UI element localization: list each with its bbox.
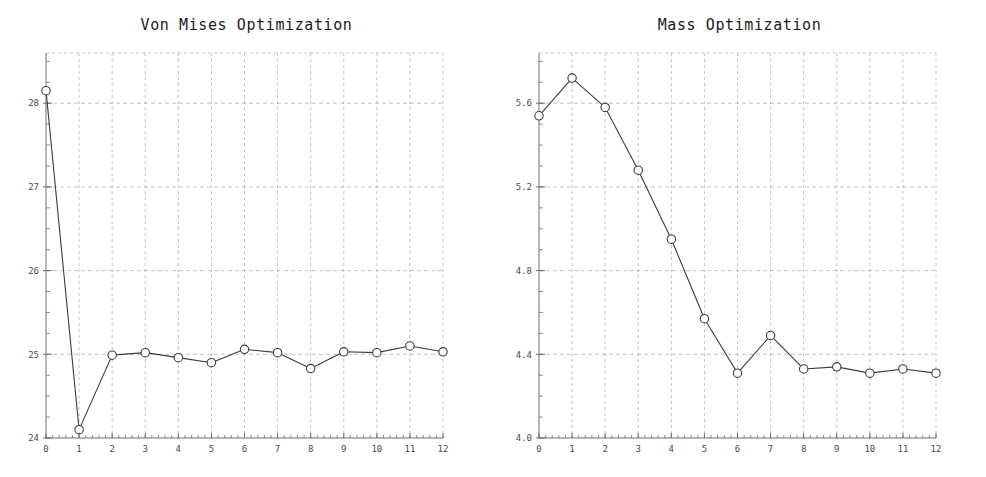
x-tick-label: 5 [702,444,707,454]
x-tick-label: 10 [371,444,382,454]
data-point-marker [932,369,940,377]
y-tick-label: 27 [28,182,39,192]
data-point-marker [601,103,609,111]
x-tick-label: 4 [669,444,674,454]
x-tick-label: 4 [176,444,181,454]
x-tick-label: 0 [43,444,48,454]
data-point-marker [75,425,83,433]
data-point-marker [733,369,741,377]
data-point-marker [439,348,447,356]
x-tick-label: 7 [275,444,280,454]
data-point-marker [42,86,50,94]
data-point-marker [373,348,381,356]
data-point-marker [406,342,414,350]
y-tick-label: 5.2 [516,182,532,192]
x-tick-label: 9 [341,444,346,454]
data-point-marker [108,351,116,359]
data-point-marker [634,166,642,174]
data-series-line [539,78,936,373]
data-point-marker [174,353,182,361]
y-tick-label: 5.6 [516,98,532,108]
x-tick-label: 3 [143,444,148,454]
x-tick-label: 8 [801,444,806,454]
data-point-marker [340,348,348,356]
y-tick-label: 26 [28,266,39,276]
data-point-marker [667,235,675,243]
data-point-marker [899,365,907,373]
x-tick-label: 5 [209,444,214,454]
chart-panel-mass: Mass Optimization 4.04.44.85.25.60123456… [493,0,986,477]
x-tick-label: 3 [636,444,641,454]
data-point-marker [207,358,215,366]
x-tick-label: 6 [735,444,740,454]
chart-panel-von-mises: Von Mises Optimization 24252627280123456… [0,0,493,477]
y-tick-label: 28 [28,98,39,108]
x-tick-label: 1 [569,444,574,454]
chart-plot-von-mises: 24252627280123456789101112 [0,0,493,477]
x-tick-label: 0 [536,444,541,454]
data-point-marker [306,364,314,372]
data-point-marker [700,315,708,323]
x-tick-label: 2 [602,444,607,454]
x-tick-label: 7 [768,444,773,454]
data-point-marker [568,74,576,82]
data-point-marker [535,112,543,120]
x-tick-label: 9 [834,444,839,454]
x-tick-label: 10 [864,444,875,454]
x-tick-label: 1 [76,444,81,454]
data-point-marker [240,345,248,353]
y-tick-label: 24 [28,433,39,443]
chart-plot-mass: 4.04.44.85.25.60123456789101112 [493,0,986,477]
data-point-marker [833,363,841,371]
data-point-marker [799,365,807,373]
figure-canvas: Von Mises Optimization 24252627280123456… [0,0,986,477]
data-point-marker [766,331,774,339]
data-point-marker [273,348,281,356]
x-tick-label: 2 [109,444,114,454]
data-point-marker [141,348,149,356]
y-tick-label: 4.4 [516,350,532,360]
y-tick-label: 25 [28,350,39,360]
x-tick-label: 12 [931,444,942,454]
x-tick-label: 11 [404,444,415,454]
x-tick-label: 6 [242,444,247,454]
x-tick-label: 8 [308,444,313,454]
y-tick-label: 4.8 [516,266,532,276]
x-tick-label: 12 [438,444,449,454]
x-tick-label: 11 [897,444,908,454]
y-tick-label: 4.0 [516,433,532,443]
data-point-marker [866,369,874,377]
